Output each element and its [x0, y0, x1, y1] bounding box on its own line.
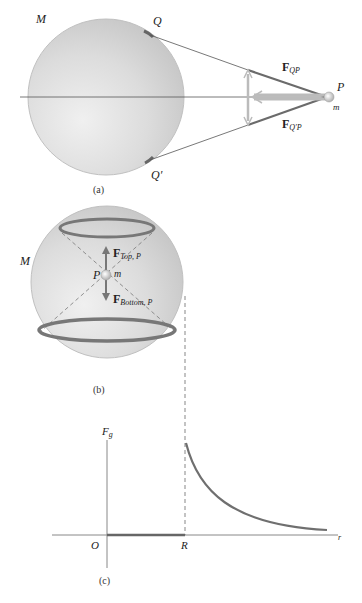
label-force-top: FTop, P — [113, 246, 141, 261]
caption-c: (c) — [99, 575, 110, 586]
label-radius: R — [181, 539, 188, 551]
label-mass-a: M — [36, 12, 46, 27]
label-force-q-prime-p: FQ′P — [282, 117, 302, 132]
label-r-axis: r — [338, 533, 341, 542]
label-q-prime: Q′ — [151, 168, 162, 183]
label-fg: Fg — [102, 425, 113, 439]
figure-canvas — [0, 0, 362, 603]
label-p-b: P — [93, 268, 100, 283]
label-m-b: m — [114, 268, 121, 279]
label-mass-b: M — [20, 254, 30, 269]
caption-a: (a) — [93, 184, 104, 195]
label-force-qp: FQP — [282, 60, 300, 75]
label-p-a: P — [337, 80, 344, 95]
label-m-a: m — [333, 102, 340, 112]
caption-b: (b) — [93, 384, 105, 395]
label-q: Q — [153, 14, 162, 29]
particle-p-a — [324, 92, 334, 102]
label-force-bottom: FBottom, P — [113, 292, 152, 307]
label-origin: O — [91, 539, 99, 551]
force-curve-outside — [186, 443, 327, 530]
particle-p-b — [101, 270, 111, 280]
panel-a — [20, 19, 334, 175]
panel-b — [31, 206, 185, 535]
